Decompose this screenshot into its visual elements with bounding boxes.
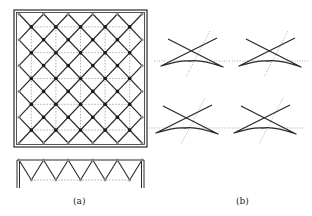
- truss-elevation: [17, 159, 144, 188]
- panel-b-label: (b): [236, 196, 249, 206]
- star-units: [149, 31, 308, 144]
- figure-canvas: [0, 0, 312, 216]
- diagrid-plan: [14, 10, 147, 147]
- unit-bottom-right: [227, 98, 303, 144]
- unit-bottom-left: [149, 98, 225, 144]
- unit-top-left: [154, 31, 230, 77]
- unit-top-right: [232, 31, 308, 77]
- panel-a-label: (a): [73, 196, 85, 206]
